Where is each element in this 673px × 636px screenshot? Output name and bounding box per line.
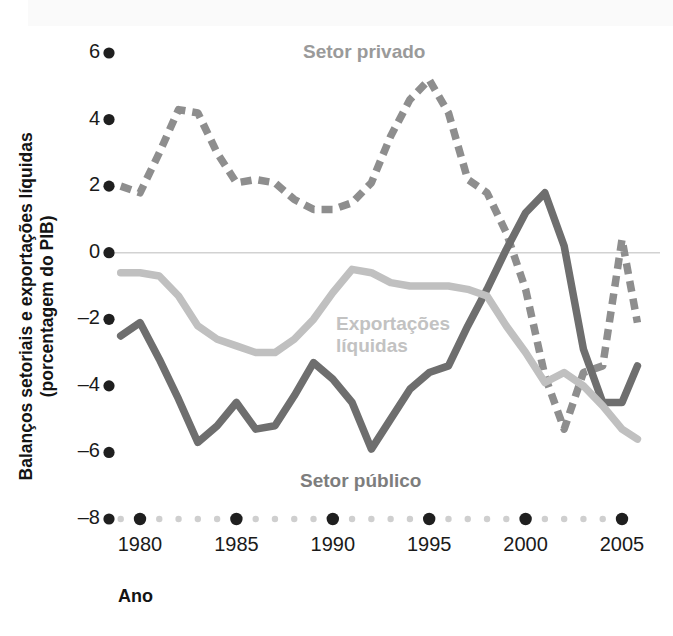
chart-figure: 6420–2–4–6–8 198019851990199520002005 Ba… [0,0,673,636]
x-axis-tick-dots [118,513,629,525]
y-tick-label-neg6: –6 [52,439,100,462]
y-axis-title-line2: (porcentagem do PIB) [37,86,58,526]
y-tick-label-4: 4 [52,107,100,130]
series-label-exportacoes-liquidas: Exportações líquidas [336,313,476,357]
y-axis-title: Balanços setoriais e exportações líquida… [16,86,59,526]
y-tick-label-neg4: –4 [52,373,100,396]
data-series-group [121,80,638,449]
y-axis-title-line1: Balanços setoriais e exportações líquida… [16,132,36,480]
x-tick-label-2000: 2000 [491,533,561,556]
y-tick-label-2: 2 [52,173,100,196]
y-tick-label-neg2: –2 [52,306,100,329]
x-tick-label-1995: 1995 [394,533,464,556]
y-tick-label-neg8: –8 [52,506,100,529]
y-tick-label-6: 6 [52,40,100,63]
x-tick-label-1990: 1990 [298,533,368,556]
x-axis-title: Ano [118,586,153,607]
series-label-setor-privado: Setor privado [303,41,425,63]
series-label-setor-publico: Setor público [300,470,421,492]
x-tick-label-1985: 1985 [201,533,271,556]
y-tick-label-0: 0 [52,240,100,263]
x-tick-label-2005: 2005 [587,533,657,556]
y-axis-tick-dots [103,47,114,524]
x-tick-label-1980: 1980 [105,533,175,556]
